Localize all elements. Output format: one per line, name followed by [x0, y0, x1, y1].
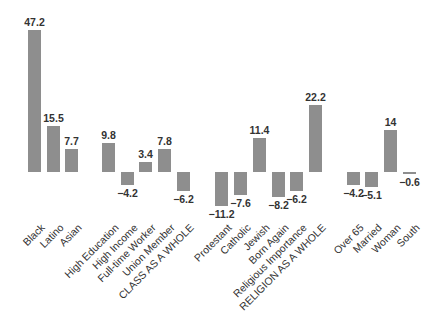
bar	[158, 149, 171, 172]
bar	[347, 172, 360, 185]
value-label: −7.6	[230, 198, 251, 209]
value-label: −4.2	[117, 188, 138, 199]
value-label: 9.8	[101, 130, 116, 141]
bar	[28, 30, 41, 172]
bar	[253, 138, 266, 172]
bar	[215, 172, 228, 206]
value-label: −6.2	[173, 194, 194, 205]
value-label: 7.8	[157, 136, 172, 147]
value-label: −11.2	[209, 209, 235, 220]
value-label: 11.4	[250, 125, 270, 136]
bar	[384, 130, 397, 172]
value-label: 3.4	[138, 149, 153, 160]
bar	[234, 172, 247, 195]
bar	[121, 172, 134, 185]
bar-chart: 47.2Black15.5Latino7.7Asian9.8High Educa…	[0, 0, 435, 328]
value-label: −5.1	[361, 190, 382, 201]
value-label: 22.2	[305, 92, 325, 103]
bar	[47, 126, 60, 173]
value-label: −0.6	[399, 177, 420, 188]
bar	[365, 172, 378, 187]
bar	[272, 172, 285, 197]
bar	[139, 162, 152, 172]
bar	[102, 143, 115, 172]
bar	[290, 172, 303, 191]
value-label: 15.5	[43, 113, 63, 124]
value-label: −6.2	[286, 194, 307, 205]
bar	[65, 149, 78, 172]
bar	[403, 172, 416, 174]
value-label: 47.2	[24, 17, 44, 28]
bar	[177, 172, 190, 191]
value-label: 7.7	[64, 136, 79, 147]
bar	[309, 105, 322, 172]
value-label: 14	[385, 117, 397, 128]
